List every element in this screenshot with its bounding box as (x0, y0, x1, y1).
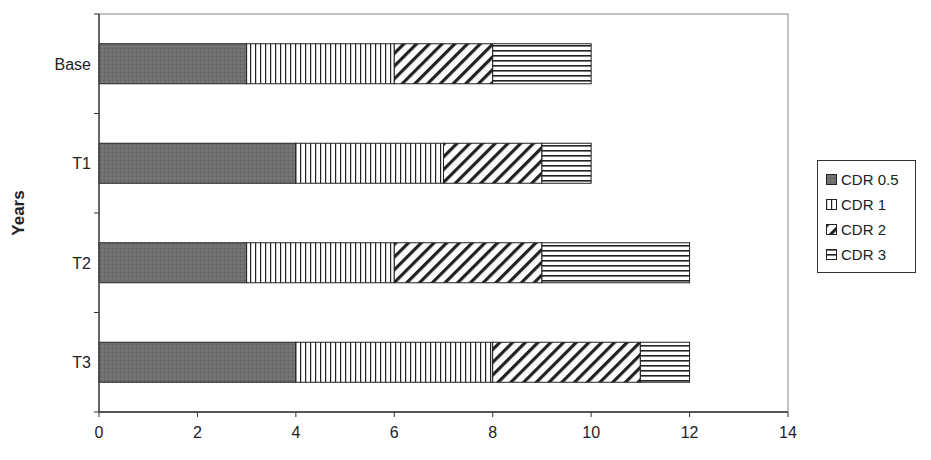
legend-label: CDR 1 (841, 196, 886, 213)
bar-segment-cdr-2 (394, 44, 492, 84)
bar-segment-cdr-1 (296, 143, 444, 183)
bar-segment-cdr-3 (542, 143, 591, 183)
legend-label: CDR 0.5 (841, 171, 899, 188)
legend-label: CDR 3 (841, 246, 886, 263)
bar-segment-cdr-0-5 (99, 44, 247, 84)
legend-swatch-icon (826, 249, 837, 260)
bar-segment-cdr-0-5 (99, 143, 296, 183)
bar-segment-cdr-1 (247, 243, 395, 283)
legend-item: CDR 1 (826, 192, 915, 217)
bar-t3 (99, 342, 690, 382)
legend-label: CDR 2 (841, 221, 886, 238)
legend-swatch-icon (826, 224, 837, 235)
bar-t2 (99, 243, 690, 283)
category-label: T2 (72, 255, 91, 272)
category-label: T1 (72, 155, 91, 172)
legend-item: CDR 0.5 (826, 167, 915, 192)
bar-segment-cdr-0-5 (99, 342, 296, 382)
legend-item: CDR 3 (826, 242, 915, 267)
y-axis-label: Years (9, 190, 28, 235)
x-tick-label: 4 (291, 424, 300, 441)
x-tick-label: 6 (390, 424, 399, 441)
bar-chart: BaseT1T2T302468101214Years (0, 0, 931, 460)
bar-segment-cdr-3 (542, 243, 690, 283)
bar-t1 (99, 143, 591, 183)
bar-segment-cdr-2 (444, 143, 542, 183)
x-tick-label: 8 (488, 424, 497, 441)
x-tick-label: 10 (582, 424, 600, 441)
category-label: T3 (72, 354, 91, 371)
bar-segment-cdr-1 (296, 342, 493, 382)
x-tick-label: 14 (779, 424, 797, 441)
x-tick-label: 0 (95, 424, 104, 441)
x-tick-label: 12 (681, 424, 699, 441)
legend: CDR 0.5CDR 1CDR 2CDR 3 (817, 160, 916, 273)
legend-swatch-icon (826, 199, 837, 210)
legend-swatch-icon (826, 174, 837, 185)
x-tick-label: 2 (193, 424, 202, 441)
legend-item: CDR 2 (826, 217, 915, 242)
bar-segment-cdr-3 (640, 342, 689, 382)
category-label: Base (55, 56, 92, 73)
bar-base (99, 44, 591, 84)
bar-segment-cdr-0-5 (99, 243, 247, 283)
bar-segment-cdr-1 (247, 44, 395, 84)
bar-segment-cdr-3 (493, 44, 591, 84)
bar-segment-cdr-2 (493, 342, 641, 382)
bar-segment-cdr-2 (394, 243, 542, 283)
plot-area (99, 44, 690, 383)
